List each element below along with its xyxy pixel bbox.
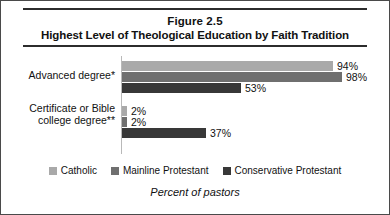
- category-label-advanced-degree: Advanced degree*: [0, 69, 115, 81]
- legend-item-catholic: Catholic: [49, 165, 97, 176]
- bar-conservative-certificate: 37%: [122, 128, 206, 138]
- legend-swatch-icon: [49, 167, 57, 175]
- bar-value-label: 53%: [245, 83, 266, 94]
- legend-item-mainline-protestant: Mainline Protestant: [111, 165, 209, 176]
- title-rule-bottom: [23, 45, 367, 47]
- bar-value-label: 37%: [210, 128, 231, 139]
- bar-fill: [122, 117, 127, 127]
- bar-fill: [122, 61, 333, 71]
- figure-number: Figure 2.5: [23, 14, 367, 28]
- legend-label: Conservative Protestant: [235, 165, 342, 176]
- chart-legend: Catholic Mainline Protestant Conservativ…: [1, 165, 389, 176]
- legend-item-conservative-protestant: Conservative Protestant: [223, 165, 342, 176]
- chart-plot-area: Advanced degree* Certificate or Bible co…: [1, 53, 390, 161]
- legend-label: Catholic: [61, 165, 97, 176]
- category-label-line1: Certificate or Bible: [0, 102, 115, 114]
- figure-container: Figure 2.5 Highest Level of Theological …: [0, 0, 390, 215]
- bar-mainline-certificate: 2%: [122, 117, 127, 127]
- category-label-line2: college degree**: [0, 114, 115, 126]
- x-axis-title: Percent of pastors: [1, 186, 389, 198]
- bar-fill: [122, 72, 342, 82]
- figure-title-block: Figure 2.5 Highest Level of Theological …: [1, 1, 389, 47]
- page-title: Highest Level of Theological Education b…: [23, 28, 367, 42]
- bar-mainline-advanced: 98%: [122, 72, 342, 82]
- bar-fill: [122, 83, 241, 93]
- bar-conservative-advanced: 53%: [122, 83, 241, 93]
- bar-fill: [122, 128, 206, 138]
- bar-catholic-certificate: 2%: [122, 106, 127, 116]
- legend-swatch-icon: [111, 167, 119, 175]
- bar-fill: [122, 106, 127, 116]
- bar-value-label: 2%: [131, 117, 146, 128]
- figure-title: Figure 2.5 Highest Level of Theological …: [23, 10, 367, 45]
- legend-label: Mainline Protestant: [123, 165, 209, 176]
- bar-catholic-advanced: 94%: [122, 61, 333, 71]
- bar-value-label: 98%: [346, 72, 367, 83]
- legend-swatch-icon: [223, 167, 231, 175]
- category-label-certificate-bible-college: Certificate or Bible college degree**: [0, 102, 115, 126]
- category-label-line1: Advanced degree*: [0, 69, 115, 81]
